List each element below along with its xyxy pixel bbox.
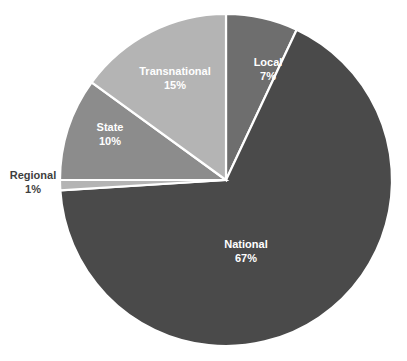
pie-label-transnational-value: 15% — [164, 79, 186, 91]
pie-label-regional-name: Regional — [10, 169, 56, 181]
pie-label-transnational-name: Transnational — [139, 65, 211, 77]
pie-slices-group — [60, 14, 392, 346]
pie-chart: Local 7% National 67% Regional 1% State … — [0, 0, 407, 361]
pie-label-local-name: Local — [254, 56, 283, 68]
pie-label-state-name: State — [97, 121, 124, 133]
pie-label-state-value: 10% — [99, 135, 121, 147]
pie-label-national-name: National — [224, 238, 267, 250]
pie-label-national-value: 67% — [235, 252, 257, 264]
pie-chart-canvas: Local 7% National 67% Regional 1% State … — [0, 0, 407, 361]
pie-label-regional: Regional 1% — [10, 169, 56, 195]
pie-label-local-value: 7% — [260, 70, 276, 82]
pie-label-regional-value: 1% — [25, 183, 41, 195]
